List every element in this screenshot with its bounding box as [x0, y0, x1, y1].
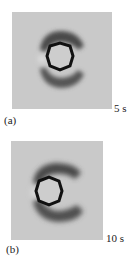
panel-b-image [11, 141, 103, 240]
panel-label-a: (a) [4, 114, 16, 126]
obstacle-outline-icon [36, 177, 62, 205]
time-label-b: 10 s [106, 232, 124, 244]
time-label-a: 5 s [114, 102, 127, 114]
panel-a-image [12, 12, 112, 109]
panel-a-simulation-graphic [12, 12, 112, 109]
panel-label-b: (b) [6, 243, 19, 255]
panel-b-simulation-graphic [11, 141, 103, 240]
obstacle-outline-icon [47, 43, 73, 70]
